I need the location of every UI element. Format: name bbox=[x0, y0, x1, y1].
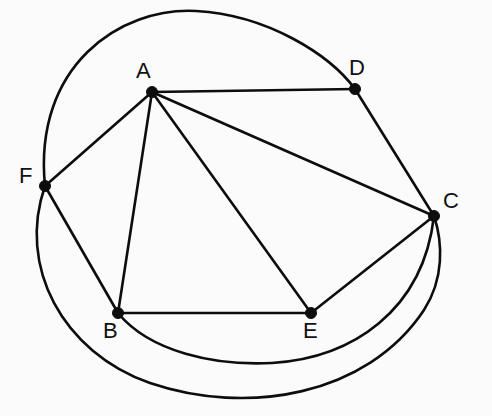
vertex-dot-e[interactable] bbox=[306, 308, 317, 319]
vertex-label-d: D bbox=[349, 57, 365, 79]
edge-a-f bbox=[45, 92, 152, 186]
edge-a-b bbox=[118, 92, 152, 313]
vertex-label-f: F bbox=[19, 165, 32, 187]
vertex-dot-b[interactable] bbox=[113, 308, 124, 319]
edge-f-c-curve bbox=[37, 186, 440, 398]
graph-diagram-canvas: A B C D E F bbox=[0, 0, 492, 416]
vertex-label-a: A bbox=[136, 60, 151, 82]
vertex-dot-f[interactable] bbox=[40, 181, 51, 192]
edge-a-c bbox=[152, 92, 434, 216]
edge-d-c bbox=[355, 89, 434, 216]
vertex-label-e: E bbox=[303, 320, 318, 342]
vertex-label-b: B bbox=[103, 320, 118, 342]
vertex-dot-c[interactable] bbox=[429, 211, 440, 222]
edge-a-d bbox=[152, 89, 355, 92]
edge-b-c-curve bbox=[118, 216, 434, 363]
vertex-label-c: C bbox=[443, 190, 459, 212]
vertex-dot-d[interactable] bbox=[350, 84, 361, 95]
edges-group bbox=[37, 11, 440, 398]
graph-svg bbox=[0, 0, 492, 416]
edge-c-e bbox=[311, 216, 434, 313]
edge-a-e bbox=[152, 92, 311, 313]
edge-b-f bbox=[45, 186, 118, 313]
vertex-dot-a[interactable] bbox=[147, 87, 158, 98]
